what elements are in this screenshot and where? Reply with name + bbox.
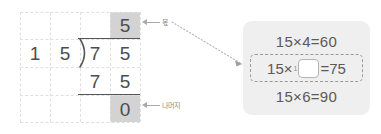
hint-row-2-right: =75 (320, 60, 345, 77)
hint-equation-row-3: 15×6=90 (243, 83, 370, 109)
product-tens-digit: 7 (80, 68, 110, 95)
division-worksheet: 5 1 5 7 5 7 5 0 몫 나머지 (0, 0, 190, 134)
multiplication-hint-panel: 15×4=60 15×1=75 15×6=90 (243, 21, 370, 115)
hint-equation-row-1: 15×4=60 (243, 28, 370, 54)
hint-row-2-left: 15× (267, 60, 292, 77)
grid-line-vertical (140, 12, 141, 122)
worksheet-grid: 5 1 5 7 5 7 5 0 (20, 12, 140, 122)
remainder-callout-line (147, 105, 160, 106)
remainder-label: 나머지 (162, 100, 180, 110)
hint-row-2-superscript: 1 (294, 65, 298, 72)
quotient-callout-arrow-icon (142, 19, 147, 25)
grid-line-vertical (50, 12, 51, 122)
divisor-ones-digit: 5 (50, 40, 80, 67)
answer-blank-box[interactable] (298, 59, 319, 78)
grid-line-vertical (20, 12, 21, 122)
subtraction-rule (78, 94, 140, 95)
quotient-ones-digit: 5 (110, 12, 140, 39)
remainder-digit: 0 (110, 96, 140, 123)
remainder-callout-arrow-icon (142, 102, 147, 108)
divisor-tens-digit: 1 (20, 40, 50, 67)
product-ones-digit: 5 (110, 68, 140, 95)
hint-equation-row-2-highlighted: 15×1=75 (250, 54, 363, 82)
quotient-label: 몫 (162, 17, 168, 27)
division-bracket-icon (78, 38, 92, 68)
quotient-callout-line (147, 22, 160, 23)
dividend-ones-digit: 5 (110, 40, 140, 67)
